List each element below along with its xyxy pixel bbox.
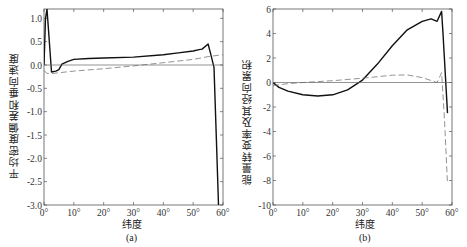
series-line [44,9,219,205]
y-tick-label: 0 [266,78,271,88]
y-tick-label: -2 [263,103,271,113]
x-tick-label: 20° [326,208,340,218]
y-tick-label: 0.5 [30,37,42,47]
y-tick-label: -1.0 [27,107,42,117]
x-tick-label: 10° [296,208,310,218]
panel-caption-b: (b) [359,232,371,243]
y-tick-label: 0.0 [30,61,42,71]
y-tick-label: -3.0 [27,201,42,211]
axes-frame [44,9,223,205]
y-tick-label: -8 [263,176,271,186]
y-tick-label: 1.0 [30,14,42,24]
y-tick-label: -4 [263,127,271,137]
x-tick-label: 50° [187,208,201,218]
y-tick-label: -2.5 [27,177,42,187]
y-axis-label-a: 平均密度偏差和垂向速度 [6,52,21,179]
chart-panel-b: 0°10°20°30°40°50°60°6420-2-4-6-8-10 能量转变… [233,0,466,247]
y-tick-label: -0.5 [27,84,42,94]
x-tick-label: 60° [445,208,459,218]
y-tick-label: -6 [263,152,271,162]
axes-frame [273,9,452,205]
chart-panel-a: 0°10°20°30°40°50°60°1.00.50.0-0.5-1.0-1.… [0,0,233,247]
x-axis-label-a: 纬度 [122,216,142,231]
y-tick-label: -1.5 [27,131,42,141]
y-tick-label: 4 [266,29,271,39]
x-tick-label: 40° [157,208,171,218]
series-line [273,11,448,113]
y-tick-label: 2 [266,54,271,64]
panel-caption-a: (a) [126,232,137,243]
y-axis-label-b: 能量转变率及其经向累积 [239,58,254,185]
x-tick-label: 50° [416,208,430,218]
x-tick-label: 60° [216,208,230,218]
plot-area-a: 0°10°20°30°40°50°60°1.00.50.0-0.5-1.0-1.… [0,0,233,247]
y-tick-label: 6 [266,5,271,15]
x-tick-label: 10° [67,208,81,218]
x-axis-label-b: 纬度 [355,216,375,231]
x-tick-label: 40° [386,208,400,218]
series-line [273,73,448,185]
plot-area-b: 0°10°20°30°40°50°60°6420-2-4-6-8-10 [233,0,467,247]
x-tick-label: 20° [97,208,111,218]
y-tick-label: -10 [258,201,271,211]
y-tick-label: -2.0 [27,154,42,164]
